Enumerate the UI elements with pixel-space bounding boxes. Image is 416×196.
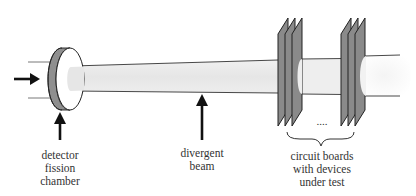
boards-label-line-2: with devices	[280, 163, 364, 176]
detector-fission-chamber	[48, 48, 84, 110]
detector-label-line-1: detector	[30, 149, 90, 162]
beam-pointer-arrow-icon	[196, 94, 208, 140]
beam-label: divergent beam	[172, 147, 232, 173]
detector-label-line-2: fission	[30, 162, 90, 175]
boards-label-line-1: circuit boards	[280, 150, 364, 163]
boards-brace	[287, 132, 354, 146]
boards-label-line-3: under test	[280, 176, 364, 189]
detector-pointer-arrow-icon	[54, 112, 66, 140]
detector-label: detector fission chamber	[30, 149, 90, 188]
beam-label-line-1: divergent	[172, 147, 232, 160]
beam-label-line-2: beam	[172, 160, 232, 173]
boards-label: circuit boards with devices under test	[280, 150, 364, 189]
incoming-beam-arrow-icon	[14, 73, 40, 85]
divergent-beam	[66, 60, 278, 93]
detector-label-line-3: chamber	[30, 175, 90, 188]
circuit-board-stack-1	[278, 18, 302, 126]
circuit-board-stack-2	[341, 18, 366, 126]
beam-segment-middle	[296, 59, 346, 95]
board-ellipsis: ....	[317, 115, 328, 127]
